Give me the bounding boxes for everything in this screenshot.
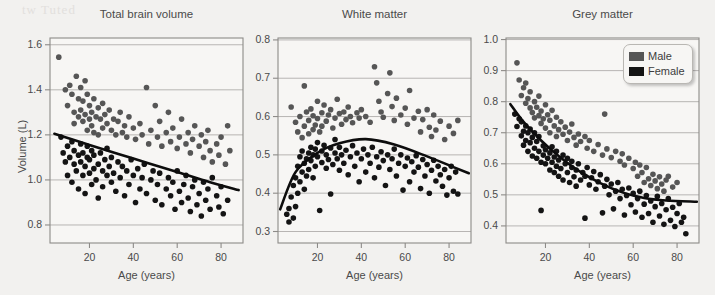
- legend-item: Male: [629, 49, 685, 64]
- data-point: [582, 134, 588, 140]
- data-point: [543, 102, 549, 108]
- data-point: [556, 173, 562, 179]
- data-point: [551, 170, 557, 176]
- data-point: [543, 161, 549, 167]
- data-point: [562, 124, 568, 130]
- data-point: [523, 80, 529, 86]
- data-point: [619, 151, 625, 157]
- data-point: [573, 183, 579, 189]
- data-point: [611, 206, 617, 212]
- data-point: [534, 104, 540, 110]
- data-point: [587, 138, 593, 144]
- data-point: [554, 114, 560, 120]
- y-axis-tick-label: 1.0: [464, 33, 498, 45]
- data-point: [655, 186, 661, 192]
- data-point: [641, 201, 647, 207]
- data-point: [646, 176, 652, 182]
- data-point: [536, 93, 542, 99]
- x-axis-tick-label: 40: [574, 251, 604, 263]
- data-point: [514, 124, 520, 130]
- data-point: [657, 213, 663, 219]
- data-point: [551, 123, 557, 129]
- data-point: [681, 214, 687, 220]
- data-point: [622, 212, 628, 218]
- data-point: [679, 219, 685, 225]
- data-point: [530, 110, 536, 116]
- y-axis-tick-label: 0.4: [464, 219, 498, 231]
- data-point: [683, 231, 689, 237]
- data-point: [659, 201, 665, 207]
- data-point: [674, 180, 680, 186]
- data-point: [635, 173, 641, 179]
- data-point: [554, 134, 560, 140]
- data-point: [549, 108, 555, 114]
- data-point: [626, 155, 632, 161]
- legend-label: Female: [648, 64, 685, 79]
- data-point: [573, 142, 579, 148]
- data-point: [591, 169, 597, 175]
- data-point: [663, 207, 669, 213]
- data-point: [538, 208, 544, 214]
- y-axis-tick-label: 0.7: [464, 126, 498, 138]
- data-point: [608, 155, 614, 161]
- data-point: [558, 119, 564, 125]
- data-point: [549, 159, 555, 165]
- data-point: [545, 155, 551, 161]
- data-point: [639, 214, 645, 220]
- data-point: [600, 152, 606, 158]
- x-axis-label: Age (years): [506, 269, 699, 281]
- data-point: [659, 181, 665, 187]
- data-point: [606, 192, 612, 198]
- data-point: [578, 177, 584, 183]
- data-point: [630, 166, 636, 172]
- data-point: [514, 60, 520, 66]
- data-point: [650, 219, 656, 225]
- legend-swatch-icon: [629, 52, 644, 61]
- y-axis-tick-label: 0.5: [464, 188, 498, 200]
- data-point: [595, 142, 601, 148]
- data-point: [560, 131, 566, 137]
- data-point: [650, 172, 656, 178]
- data-point: [661, 222, 667, 228]
- data-point: [525, 149, 531, 155]
- data-point: [543, 125, 549, 131]
- data-point: [516, 77, 522, 83]
- data-point: [604, 146, 610, 152]
- data-point: [633, 209, 639, 215]
- data-point: [584, 165, 590, 171]
- figure-container: tw Tuted Total brain volume0.81.01.21.41…: [0, 0, 715, 295]
- data-point: [547, 130, 553, 136]
- data-point: [617, 159, 623, 165]
- data-point: [615, 180, 621, 186]
- data-point: [670, 204, 676, 210]
- data-point: [547, 118, 553, 124]
- data-point: [565, 138, 571, 144]
- y-axis-tick-label: 0.9: [464, 64, 498, 76]
- legend-item: Female: [629, 64, 685, 79]
- data-point: [532, 99, 538, 105]
- data-point: [565, 170, 571, 176]
- data-point: [637, 188, 643, 194]
- plot-canvas: [0, 0, 715, 295]
- data-point: [527, 89, 533, 95]
- x-axis-tick-label: 60: [618, 251, 648, 263]
- x-axis-tick-label: 80: [662, 251, 692, 263]
- data-point: [626, 185, 632, 191]
- data-point: [578, 139, 584, 145]
- data-point: [576, 161, 582, 167]
- legend-swatch-icon: [629, 67, 644, 76]
- data-point: [567, 129, 573, 135]
- x-axis-tick-label: 20: [530, 251, 560, 263]
- data-point: [536, 149, 542, 155]
- data-point: [604, 177, 610, 183]
- data-point: [582, 215, 588, 221]
- data-point: [571, 174, 577, 180]
- data-point: [668, 218, 674, 224]
- data-point: [613, 149, 619, 155]
- data-point: [540, 116, 546, 122]
- data-point: [527, 140, 533, 146]
- data-point: [556, 127, 562, 133]
- data-point: [652, 178, 658, 184]
- data-point: [639, 170, 645, 176]
- data-point: [674, 211, 680, 217]
